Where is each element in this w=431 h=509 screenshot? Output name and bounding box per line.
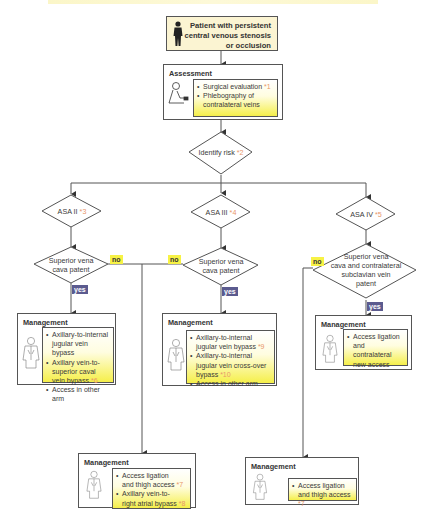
doctor-icon [252, 473, 268, 501]
assessment-title: Assessment [169, 69, 212, 78]
yes-tag-asa2: yes [72, 285, 88, 294]
management-title: Management [84, 458, 129, 467]
management-title: Management [23, 318, 68, 327]
svc-patent-decision-asa3: Superior venacava patent [188, 257, 254, 275]
management-asa23-no: Management Access ligationand thigh acce… [78, 453, 196, 508]
start-box: Patient with persistent central venous s… [166, 16, 278, 51]
no-tag-asa2: no [110, 255, 123, 264]
svc-subclavian-patent-decision-asa4: Superior venacava and contralateral subc… [326, 252, 406, 288]
management-items: Access ligationand contralateralnew acce… [343, 329, 408, 366]
management-asa3-yes: Management Axillary-to-internaljugular v… [162, 313, 277, 386]
asa4-decision: ASA IV *5 [336, 210, 396, 219]
management-items: Axillary-to-internaljugular vein bypass … [42, 327, 114, 383]
management-item: Axillary-to-internaljugular vein bypass [46, 330, 110, 358]
assessment-item: Surgical evaluation *1 [197, 82, 274, 91]
management-items: Access ligationand thigh access *7 [288, 478, 357, 501]
management-title: Management [321, 320, 366, 329]
management-item: Access ligationand contralateralnew acce… [347, 332, 404, 369]
start-label: Patient with persistent central venous s… [184, 21, 271, 51]
management-asa4-yes: Management Access ligationand contralate… [315, 315, 412, 370]
doctor-icon [22, 336, 40, 370]
management-item: Access in other arm [190, 379, 271, 388]
person-silhouette-icon [173, 21, 183, 47]
management-asa4-no: Management Access ligationand thigh acce… [245, 457, 359, 505]
doctor-examining-icon [168, 81, 190, 107]
assessment-box: Assessment Surgical evaluation *1 Phlebo… [163, 64, 283, 120]
svc-patent-decision-asa2: Superior venacava patent [38, 256, 104, 274]
doctor-icon [321, 334, 339, 364]
management-items: Axillary-to-internaljugular vein bypass … [186, 330, 275, 384]
doctor-icon [167, 338, 185, 372]
management-item: Axillary-to-internaljugular vein cross-o… [190, 351, 271, 379]
doctor-icon [85, 470, 103, 500]
management-item: Access ligationand thigh access *7 [116, 471, 187, 489]
management-item: Access ligationand thigh access *7 [292, 481, 353, 509]
asa2-decision: ASA II *3 [42, 207, 102, 216]
management-asa2-yes: Management Axillary-to-internaljugular v… [17, 313, 116, 385]
yes-tag-asa4: yes [367, 302, 383, 311]
assessment-items: Surgical evaluation *1 Phlebography of c… [193, 79, 278, 117]
management-title: Management [168, 318, 213, 327]
management-item: Axillary vein-to-superior cavalvein bypa… [46, 358, 110, 386]
management-title: Management [251, 462, 296, 471]
no-tag-asa4: no [311, 257, 324, 266]
management-items: Access ligationand thigh access *7 Axill… [112, 468, 191, 509]
no-tag-asa3: no [168, 255, 181, 264]
identify-risk-decision: Identify risk *2 [189, 148, 253, 157]
management-item: Access in other arm [46, 385, 110, 403]
assessment-item: Phlebography of contralateral veins [197, 91, 274, 109]
management-item: Axillary-to-internaljugular vein bypass … [190, 333, 271, 351]
yes-tag-asa3: yes [222, 287, 238, 296]
asa3-decision: ASA III *4 [191, 208, 251, 217]
management-item: Axillary vein-to-right atrial bypass *8 [116, 489, 187, 507]
